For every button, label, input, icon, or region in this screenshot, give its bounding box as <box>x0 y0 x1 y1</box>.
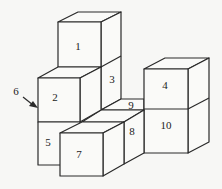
label-10: 10 <box>161 119 173 131</box>
label-5: 5 <box>45 136 51 148</box>
label-7: 7 <box>76 148 82 160</box>
cube-7 <box>60 122 124 176</box>
label-6: 6 <box>13 85 19 97</box>
label-9: 9 <box>128 99 134 111</box>
cube-diagram: 1 2 3 4 5 6 7 8 9 10 <box>0 0 222 189</box>
cube-4-10-column <box>144 58 209 153</box>
label-8: 8 <box>129 125 135 137</box>
label-1: 1 <box>75 40 81 52</box>
arrow-6 <box>23 97 38 108</box>
label-4: 4 <box>162 79 168 91</box>
label-3: 3 <box>109 73 115 85</box>
label-2: 2 <box>52 91 58 103</box>
